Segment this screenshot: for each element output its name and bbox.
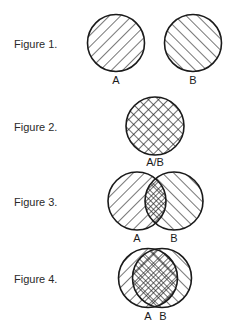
caption-b: B — [189, 74, 196, 86]
figure-4: A B — [119, 249, 192, 323]
caption-ab: A/B — [146, 156, 164, 168]
figure-1: A B — [88, 15, 222, 87]
caption-a: A — [144, 310, 152, 322]
caption-a: A — [133, 232, 141, 244]
caption-b: B — [170, 232, 177, 244]
caption-a: A — [112, 74, 120, 86]
venn-diagrams: A B A/B A B A B — [0, 0, 230, 333]
figure-3: A B — [108, 172, 203, 244]
caption-b: B — [159, 310, 166, 322]
circle-a — [88, 15, 145, 72]
figure-2: A/B — [126, 97, 184, 168]
circle-b — [165, 15, 222, 72]
circle-ab — [126, 97, 184, 155]
